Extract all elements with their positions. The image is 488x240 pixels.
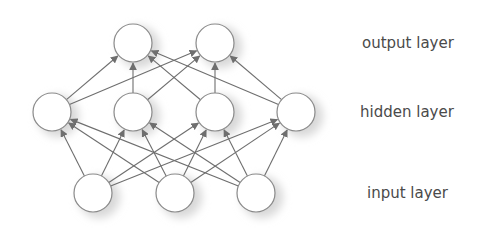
input-layer-label: input layer — [367, 184, 448, 202]
connection-arrow — [264, 130, 287, 176]
connection-arrow — [230, 56, 281, 100]
connection-arrow — [66, 56, 117, 100]
input-node — [156, 174, 194, 212]
hidden-node — [33, 93, 71, 131]
input-node — [74, 174, 112, 212]
hidden-layer-label: hidden layer — [360, 103, 454, 121]
connection-arrow — [224, 130, 247, 176]
hidden-node — [196, 93, 234, 131]
connection-arrow — [61, 130, 84, 176]
output-node — [114, 24, 152, 62]
output-node — [196, 24, 234, 62]
hidden-node — [277, 93, 315, 131]
connections — [61, 51, 287, 186]
output-layer-label: output layer — [362, 34, 454, 52]
input-node — [237, 174, 275, 212]
connection-arrow — [101, 130, 124, 176]
hidden-node — [114, 93, 152, 131]
